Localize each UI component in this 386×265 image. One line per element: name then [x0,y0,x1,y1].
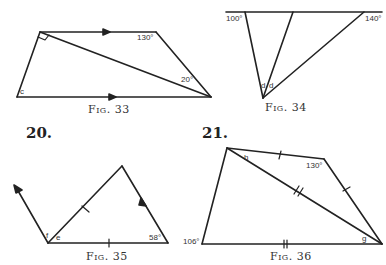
fig35-angle-58: 58° [149,233,161,242]
fig33-angle-c: c [20,87,24,96]
figure-36 [202,148,382,248]
figure-34 [226,12,382,98]
fig34-angle-d2: d [269,81,273,90]
fig35-caption: Fig. 35 [86,250,128,263]
fig36-angle-106: 106° [183,237,200,246]
figure-33 [17,29,211,100]
fig33-angle-20: 20° [181,75,193,84]
fig34-angle-100: 100° [226,14,243,23]
fig33-angle-130: 130° [137,33,154,42]
fig33-caption: Fig. 33 [88,103,130,116]
fig35-angle-e: e [56,233,61,242]
fig34-caption: Fig. 34 [265,101,307,114]
figure-35 [14,166,168,247]
problem-number-20: 20. [26,124,52,142]
fig36-caption: Fig. 36 [270,250,312,263]
fig36-angle-g: g [362,234,366,243]
fig36-angle-130: 130° [306,161,323,170]
geometry-figures: 130° 20° c 100° 140° d d f e 58° h 130° … [0,0,386,265]
fig35-angle-f: f [46,231,49,240]
fig34-angle-d1: d [261,81,265,90]
fig34-angle-140: 140° [365,14,382,23]
problem-number-21: 21. [202,124,228,142]
fig36-angle-h: h [244,153,248,162]
